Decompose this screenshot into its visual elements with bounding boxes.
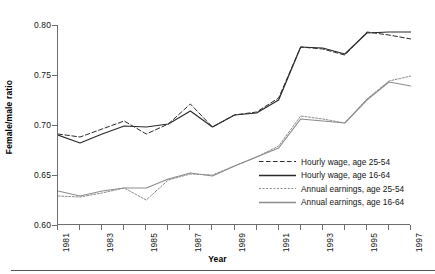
legend-swatch-icon [259, 183, 296, 194]
x-tick-label: 1987 [193, 233, 203, 252]
x-tick-label: 1989 [237, 233, 247, 252]
x-tick-mark [145, 225, 146, 230]
y-tick-mark [52, 25, 57, 26]
x-axis-title: Year [0, 254, 435, 264]
x-tick-mark [101, 225, 102, 230]
legend-label: Hourly wage, age 16-64 [296, 170, 390, 180]
footer-rule [11, 270, 435, 271]
x-tick-mark [388, 225, 389, 230]
legend-label: Annual earnings, age 25-54 [296, 184, 404, 194]
x-tick-label: 1981 [61, 233, 71, 252]
x-tick-mark [256, 225, 257, 230]
x-tick-mark [366, 225, 367, 230]
legend-swatch-icon [259, 170, 296, 181]
series-line [58, 32, 411, 143]
legend-item[interactable]: Hourly wage, age 16-64 [259, 169, 431, 183]
x-tick-mark [234, 225, 235, 230]
x-tick-mark [79, 225, 80, 230]
y-axis-title: Female/male ratio [4, 32, 14, 202]
y-tick-mark [52, 75, 57, 76]
x-tick-label: 1985 [149, 233, 159, 252]
x-tick-label: 1991 [281, 233, 291, 252]
x-tick-label: 1993 [325, 233, 335, 252]
y-tick-label: 0.75 [34, 70, 51, 80]
legend-label: Annual earnings, age 16-64 [296, 197, 404, 207]
x-tick-mark [410, 225, 411, 230]
chart-figure: 0.800.750.700.650.60 Female/male ratio 1… [0, 0, 435, 274]
legend-label: Hourly wage, age 25-54 [296, 157, 390, 167]
x-tick-mark [189, 225, 190, 230]
x-tick-label: 1997 [414, 233, 424, 252]
x-tick-mark [211, 225, 212, 230]
y-tick-mark [52, 175, 57, 176]
y-tick-label: 0.70 [34, 120, 51, 130]
legend-item[interactable]: Annual earnings, age 16-64 [259, 196, 431, 210]
x-tick-label: 1995 [369, 233, 379, 252]
x-tick-mark [322, 225, 323, 230]
x-tick-mark [344, 225, 345, 230]
legend-item[interactable]: Hourly wage, age 25-54 [259, 155, 431, 169]
x-tick-label: 1983 [105, 233, 115, 252]
legend: Hourly wage, age 25-54Hourly wage, age 1… [259, 155, 431, 209]
legend-item[interactable]: Annual earnings, age 25-54 [259, 182, 431, 196]
x-tick-mark [300, 225, 301, 230]
x-tick-mark [278, 225, 279, 230]
x-tick-mark [57, 225, 58, 230]
x-tick-mark [123, 225, 124, 230]
x-tick-mark [167, 225, 168, 230]
series-line [58, 32, 411, 137]
legend-swatch-icon [259, 197, 296, 208]
y-tick-label: 0.60 [34, 220, 51, 230]
y-tick-mark [52, 225, 57, 226]
y-tick-label: 0.80 [34, 20, 51, 30]
legend-swatch-icon [259, 156, 296, 167]
y-tick-mark [52, 125, 57, 126]
y-tick-label: 0.65 [34, 170, 51, 180]
